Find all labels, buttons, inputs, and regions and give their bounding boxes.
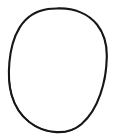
paper-background [0, 0, 116, 139]
sketch-svg [0, 0, 116, 139]
drawing-canvas: A hand-drawn closed oval, egg-like outli… [0, 0, 116, 139]
